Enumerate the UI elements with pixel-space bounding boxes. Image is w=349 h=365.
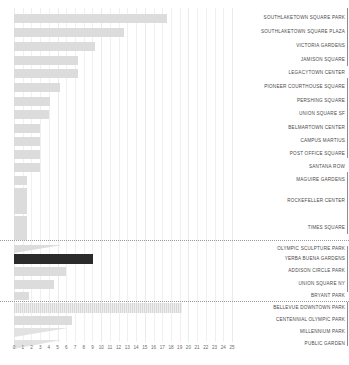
bar-row[interactable] [14, 56, 232, 65]
segment-mark[interactable] [347, 8, 348, 66]
plot-area [14, 8, 232, 342]
bar[interactable] [14, 176, 27, 185]
bar[interactable] [14, 216, 27, 240]
x-tick-label: 13 [125, 346, 130, 351]
x-tick-label: 8 [82, 346, 85, 351]
category-label: OLYMPIC SCULPTURE PARK [232, 247, 345, 252]
bar[interactable] [14, 267, 66, 276]
x-tick-label: 22 [203, 346, 208, 351]
category-label: BRYANT PARK [232, 294, 345, 299]
category-label: UNION SQUARE SF [232, 112, 345, 117]
bar[interactable] [14, 245, 62, 253]
category-label: SOUTHLAKETOWN SQUARE PLAZA [232, 30, 345, 35]
x-tick-label: 18 [168, 346, 173, 351]
x-tick-label: 24 [221, 346, 226, 351]
bar-row[interactable] [14, 28, 232, 37]
x-tick-label: 2 [30, 346, 33, 351]
bar-row[interactable] [14, 69, 232, 78]
bar-row[interactable] [14, 176, 232, 185]
segment-mark[interactable] [347, 78, 348, 158]
bar[interactable] [14, 124, 40, 133]
x-tick-label: 6 [65, 346, 68, 351]
bar-row[interactable] [14, 124, 232, 133]
category-label: PERSHING SQUARE [232, 99, 345, 104]
x-tick-label: 14 [134, 346, 139, 351]
x-tick-label: 7 [74, 346, 77, 351]
bar[interactable] [14, 14, 167, 23]
bar-row[interactable] [14, 280, 232, 289]
x-tick-label: 3 [39, 346, 42, 351]
x-tick-label: 19 [177, 346, 182, 351]
bar-row[interactable] [14, 163, 232, 172]
bar[interactable] [14, 150, 40, 159]
category-label: LEGACYTOWN CENTER [232, 71, 345, 76]
category-label: SOUTHLAKETOWN SQUARE PARK [232, 16, 345, 21]
bar-row[interactable] [14, 188, 232, 214]
bar[interactable] [14, 83, 60, 92]
x-tick-label: 16 [151, 346, 156, 351]
bar[interactable] [14, 163, 40, 172]
segment-mark[interactable] [347, 302, 348, 346]
bar-row[interactable] [14, 97, 232, 106]
bar[interactable] [14, 188, 27, 214]
x-tick-label: 11 [108, 346, 113, 351]
bar-row[interactable] [14, 303, 232, 313]
separator-after-bryant-park [0, 301, 349, 302]
bar[interactable] [14, 292, 29, 300]
scrollbar-segment-marks[interactable] [346, 0, 348, 365]
separator-after-times-square [0, 240, 349, 241]
x-tick-label: 17 [160, 346, 165, 351]
category-label: TIMES SQUARE [232, 226, 345, 231]
bar[interactable] [14, 280, 54, 289]
bar[interactable] [14, 97, 50, 106]
category-label: ROCKEFELLER CENTER [232, 199, 345, 204]
bar-row[interactable] [14, 316, 232, 325]
category-label: ADDISON CIRCLE PARK [232, 269, 345, 274]
category-label: SANTANA ROW [232, 165, 345, 170]
category-label: YERBA BUENA GARDENS [232, 257, 345, 262]
bar-row[interactable] [14, 328, 232, 337]
bar[interactable] [14, 328, 68, 337]
bar-row[interactable] [14, 254, 232, 264]
category-label: JAMISON SQUARE [232, 58, 345, 63]
bar[interactable] [14, 56, 78, 65]
x-tick-label: 12 [116, 346, 121, 351]
x-tick-label: 10 [99, 346, 104, 351]
bar[interactable] [14, 316, 72, 325]
x-tick-label: 20 [186, 346, 191, 351]
bar-row[interactable] [14, 110, 232, 119]
x-tick-label: 21 [195, 346, 200, 351]
category-label: CAMPUS MARTIUS [232, 139, 345, 144]
bar-row[interactable] [14, 292, 232, 300]
x-tick-label: 15 [142, 346, 147, 351]
bar-row[interactable] [14, 245, 232, 253]
bar-row[interactable] [14, 267, 232, 276]
category-label: BELLEVUE DOWNTOWN PARK [232, 306, 345, 311]
bar-row[interactable] [14, 150, 232, 159]
bar[interactable] [14, 254, 93, 264]
bar[interactable] [14, 303, 182, 313]
x-tick-label: 5 [56, 346, 59, 351]
bar[interactable] [14, 42, 95, 51]
bar[interactable] [14, 28, 124, 37]
horizontal-bar-chart: SOUTHLAKETOWN SQUARE PARKSOUTHLAKETOWN S… [0, 0, 349, 365]
x-tick-label: 1 [21, 346, 24, 351]
bar[interactable] [14, 137, 40, 146]
x-tick-label: 4 [48, 346, 51, 351]
bar[interactable] [14, 110, 49, 119]
category-label: CENTENNIAL OLYMPIC PARK [232, 318, 345, 323]
segment-mark[interactable] [347, 246, 348, 292]
bar-row[interactable] [14, 42, 232, 51]
category-label: MAGUIRE GARDENS [232, 178, 345, 183]
bar[interactable] [14, 69, 78, 78]
bar-row[interactable] [14, 83, 232, 92]
category-label: MILLENNIUM PARK [232, 330, 345, 335]
x-tick-label: 25 [229, 346, 234, 351]
bar-row[interactable] [14, 14, 232, 23]
x-tick-label: 0 [13, 346, 16, 351]
bar-row[interactable] [14, 137, 232, 146]
bar-row[interactable] [14, 216, 232, 240]
x-tick-label: 9 [91, 346, 94, 351]
category-label: VICTORIA GARDENS [232, 44, 345, 49]
segment-mark[interactable] [347, 172, 348, 234]
